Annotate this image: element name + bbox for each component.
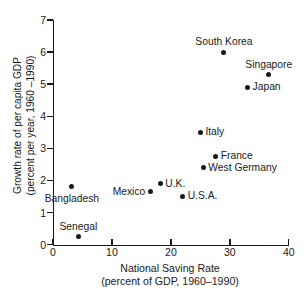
y-tick [47, 19, 53, 20]
x-tick-label: 10 [97, 247, 127, 258]
data-point-marker [245, 85, 250, 90]
y-tick [47, 180, 53, 181]
y-tick [47, 116, 53, 117]
data-point-marker [180, 194, 185, 199]
data-point-label: U.K. [165, 178, 185, 189]
x-tick-label: 0 [38, 247, 68, 258]
x-tick-label: 30 [215, 247, 245, 258]
data-point-marker [76, 234, 81, 239]
data-point-label: West Germany [208, 162, 276, 173]
data-point-label: U.S.A. [188, 190, 218, 201]
x-tick [111, 239, 112, 245]
data-point-label: Singapore [245, 59, 292, 70]
y-tick-label: 7 [26, 15, 46, 25]
data-point-marker [201, 165, 206, 170]
data-point-label: Italy [205, 126, 224, 137]
data-point-label: Bangladesh [45, 193, 99, 204]
x-axis-title: National Saving Rate (percent of GDP, 19… [40, 262, 300, 288]
x-tick-label: 40 [274, 247, 304, 258]
data-point-label: Senegal [59, 221, 97, 232]
x-tick-label: 20 [156, 247, 186, 258]
x-tick [170, 239, 171, 245]
data-point-marker [158, 181, 163, 186]
data-point-label: South Korea [195, 36, 252, 47]
data-point-marker [198, 130, 203, 135]
data-point-marker [221, 50, 226, 55]
data-point-marker [69, 184, 74, 189]
data-point-label: Japan [253, 81, 281, 92]
scatter-chart: 01234567 Growth rate of per capita GDP (… [0, 0, 304, 299]
data-point-marker [266, 72, 271, 77]
x-tick [288, 239, 289, 245]
data-point-label: France [221, 150, 253, 161]
data-point-marker [213, 154, 218, 159]
y-tick [47, 212, 53, 213]
y-tick [47, 148, 53, 149]
x-tick [52, 239, 53, 245]
x-tick [229, 239, 230, 245]
y-axis-title: Growth rate of per capita GDP (percent p… [12, 26, 37, 226]
data-point-marker [148, 189, 153, 194]
data-point-label: Mexico [113, 186, 146, 197]
y-axis-line [53, 20, 54, 246]
y-tick [47, 83, 53, 84]
y-tick [47, 51, 53, 52]
